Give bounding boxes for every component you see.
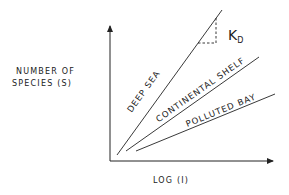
y-axis-label-line1: NUMBER OF	[16, 67, 75, 76]
x-axis-label: LOG (I)	[153, 176, 189, 185]
slope-label: KD	[228, 27, 243, 45]
species-diversity-diagram: KD DEEP SEA CONTINENTAL SHELF POLLUTED B…	[0, 0, 289, 195]
y-axis-label-line2: SPECIES (S)	[12, 79, 72, 88]
polluted-bay-line	[136, 94, 275, 151]
deep-sea-label: DEEP SEA	[125, 68, 162, 114]
